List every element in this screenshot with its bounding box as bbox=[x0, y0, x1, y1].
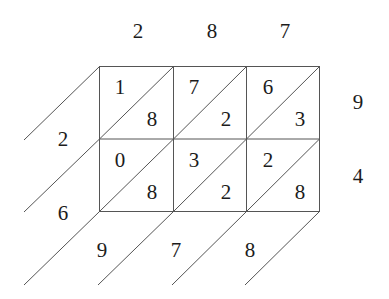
top-label-0: 2 bbox=[125, 21, 151, 42]
left-label-0: 2 bbox=[50, 129, 76, 150]
cell-r0c0-units: 8 bbox=[140, 109, 164, 130]
cell-r1c2-tens: 2 bbox=[256, 150, 280, 171]
bottom-label-1: 7 bbox=[163, 240, 189, 261]
cell-r0c1-tens: 7 bbox=[182, 77, 206, 98]
right-label-0: 9 bbox=[345, 92, 371, 113]
bottom-label-0: 9 bbox=[89, 240, 115, 261]
bottom-label-2: 8 bbox=[237, 240, 263, 261]
cell-r1c0-tens: 0 bbox=[108, 150, 132, 171]
left-label-1: 6 bbox=[50, 203, 76, 224]
cell-r1c2-units: 8 bbox=[288, 182, 312, 203]
top-label-1: 8 bbox=[199, 21, 225, 42]
cell-r0c1-units: 2 bbox=[214, 109, 238, 130]
cell-r1c0-units: 8 bbox=[140, 182, 164, 203]
cell-r0c2-tens: 6 bbox=[256, 77, 280, 98]
right-label-1: 4 bbox=[345, 166, 371, 187]
cell-r0c0-tens: 1 bbox=[108, 77, 132, 98]
cell-r0c2-units: 3 bbox=[288, 109, 312, 130]
cell-r1c1-tens: 3 bbox=[182, 150, 206, 171]
cell-r1c1-units: 2 bbox=[214, 182, 238, 203]
top-label-2: 7 bbox=[272, 21, 298, 42]
lattice-multiplication-diagram: 2 8 7 9 4 2 6 9 7 8 1 8 7 2 6 3 0 8 3 2 … bbox=[0, 0, 389, 299]
